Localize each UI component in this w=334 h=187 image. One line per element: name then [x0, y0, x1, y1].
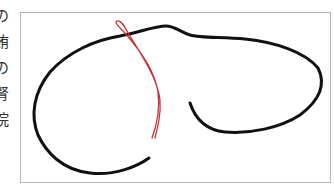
curve-illustration [0, 0, 334, 187]
red-loop-outer [116, 21, 160, 138]
black-curve-left [34, 26, 321, 174]
